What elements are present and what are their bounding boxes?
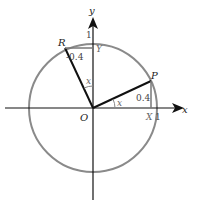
point-r-label: R bbox=[57, 37, 66, 48]
origin-label: O bbox=[80, 112, 88, 123]
angle-arc-y-axis bbox=[84, 86, 93, 88]
angle-label-x-axis: x bbox=[117, 98, 122, 108]
y-axis-label: y bbox=[88, 5, 95, 16]
angle-arc-x-axis bbox=[113, 99, 115, 108]
p-height-value: 0.4 bbox=[136, 93, 151, 103]
point-x-label: X bbox=[145, 112, 153, 122]
unit-circle-diagram: y x O P R X Y 1 1 0.4 -0.4 x x bbox=[0, 0, 197, 210]
point-p-label: P bbox=[150, 70, 158, 81]
x-tick-one: 1 bbox=[155, 112, 161, 122]
point-y-label: Y bbox=[96, 44, 103, 54]
r-offset-value: -0.4 bbox=[66, 52, 84, 62]
y-tick-one: 1 bbox=[86, 30, 92, 40]
x-axis-label: x bbox=[182, 104, 188, 115]
angle-label-y-axis: x bbox=[86, 76, 91, 86]
